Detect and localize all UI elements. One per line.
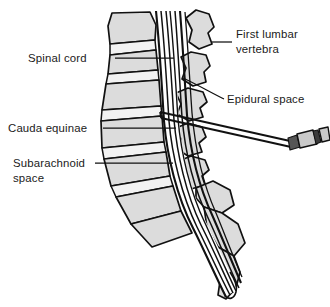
vertebral-body-l1 bbox=[108, 12, 156, 44]
spine-anatomy-illustration: Spinal cord Cauda equinae Subarachnoid s… bbox=[0, 0, 330, 307]
label-subarachnoid-space-line2: space bbox=[13, 172, 44, 184]
diagram-canvas: Spinal cord Cauda equinae Subarachnoid s… bbox=[0, 0, 330, 307]
needle-tip-bevel bbox=[160, 112, 161, 118]
label-cauda-equinae: Cauda equinae bbox=[8, 122, 87, 134]
label-epidural-space: Epidural space bbox=[227, 93, 304, 105]
label-first-lumbar-vertebra-line2: vertebra bbox=[236, 43, 280, 55]
label-spinal-cord: Spinal cord bbox=[28, 52, 87, 64]
label-subarachnoid-space-line1: Subarachnoid bbox=[13, 157, 85, 169]
vertebral-body-l3 bbox=[102, 80, 161, 110]
label-first-lumbar-vertebra-line1: First lumbar bbox=[236, 28, 298, 40]
